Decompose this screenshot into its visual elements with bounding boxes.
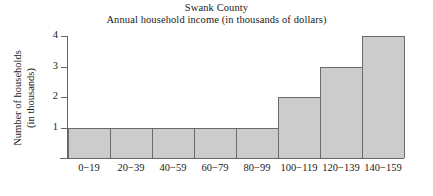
y-axis-label-line2: (in thousands) xyxy=(24,50,37,146)
bar xyxy=(236,128,279,159)
y-tick-label: 1 xyxy=(53,121,58,133)
bar-series xyxy=(68,36,404,158)
bar xyxy=(110,128,153,159)
x-axis-line xyxy=(60,158,404,159)
y-tick-label: 2 xyxy=(53,90,58,102)
bar xyxy=(362,36,405,158)
x-tick-label: 80−99 xyxy=(236,161,278,174)
x-tick-label: 60−79 xyxy=(194,161,236,174)
x-tick-label: 0−19 xyxy=(68,161,110,174)
y-tick-4: 4 xyxy=(61,36,68,37)
y-tick-3: 3 xyxy=(61,67,68,68)
y-tick-label: 4 xyxy=(53,29,58,41)
bar xyxy=(194,128,237,159)
x-tick-label: 20−39 xyxy=(110,161,152,174)
y-axis-label-line1: Number of households xyxy=(12,50,25,146)
chart-subtitle: Annual household income (in thousands of… xyxy=(0,14,433,26)
x-tick-label: 140−159 xyxy=(362,161,404,174)
y-axis-label: Number of households (in thousands) xyxy=(4,36,44,160)
x-tick-label: 120−139 xyxy=(320,161,362,174)
x-tick-label: 40−59 xyxy=(152,161,194,174)
bar xyxy=(320,67,363,159)
histogram-figure: Swank County Annual household income (in… xyxy=(0,0,433,196)
bar xyxy=(152,128,195,159)
x-tick-label: 100−119 xyxy=(278,161,320,174)
bar xyxy=(68,128,111,159)
y-tick-label: 3 xyxy=(53,60,58,72)
chart-title: Swank County xyxy=(0,2,433,14)
chart-title-block: Swank County Annual household income (in… xyxy=(0,2,433,26)
plot-area: 1234 xyxy=(68,36,404,158)
y-tick-1: 1 xyxy=(61,128,68,129)
x-axis-tick-labels: 0−1920−3940−5960−7980−99100−119120−13914… xyxy=(68,161,404,175)
bar xyxy=(278,97,321,158)
y-tick-2: 2 xyxy=(61,97,68,98)
